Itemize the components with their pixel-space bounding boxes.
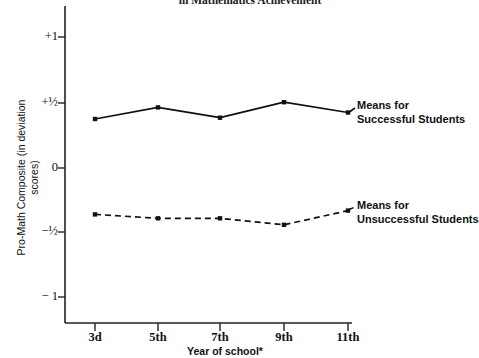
ytick-label-minus-1: − 1 [18, 289, 58, 304]
data-point [282, 223, 286, 227]
y-axis-ticks [58, 37, 65, 297]
data-point [156, 216, 160, 220]
xtick-label-7th: 7th [195, 330, 245, 345]
data-point [93, 212, 97, 216]
data-point [282, 100, 286, 104]
data-point [93, 117, 97, 121]
series-markers-unsuccessful [93, 208, 350, 227]
series-label-successful: Means for Successful Students [357, 99, 465, 126]
series-label-unsuccessful: Means for Unsuccessful Students [357, 199, 479, 226]
x-axis-title: Year of school* [130, 345, 320, 357]
ytick-label-plus-1: +1 [18, 29, 58, 44]
xtick-label-5th: 5th [133, 330, 183, 345]
series-label-successful-line2: Successful Students [357, 113, 465, 127]
series-label-successful-line1: Means for [357, 99, 465, 113]
series-markers-successful [93, 100, 350, 121]
series-label-unsuccessful-line1: Means for [357, 199, 479, 213]
y-axis-title: Pro-Math Composite (in deviation scores) [15, 93, 40, 263]
xtick-label-3d: 3d [70, 330, 120, 345]
data-point [218, 116, 222, 120]
xtick-label-9th: 9th [259, 330, 309, 345]
xtick-label-11th: 11th [323, 330, 373, 345]
x-axis-tick-labels: 3d 5th 7th 9th 11th [0, 330, 475, 346]
data-point [156, 105, 160, 109]
y-axis-title-line1: Pro-Math Composite [15, 159, 27, 255]
data-point [218, 216, 222, 220]
series-label-unsuccessful-line2: Unsuccessful Students [357, 213, 479, 227]
